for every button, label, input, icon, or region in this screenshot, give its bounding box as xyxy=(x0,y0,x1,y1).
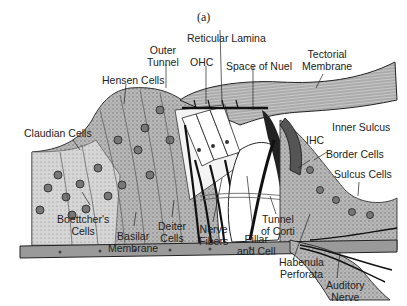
label-boettchers-cells: Boettcher's Cells xyxy=(57,213,109,237)
label-habenula-line1: Habenula xyxy=(279,256,324,268)
label-hensen-cells: Hensen Cells xyxy=(102,74,164,86)
label-outer-tunnel: Outer Tunnel xyxy=(147,44,179,68)
label-ihc: IHC xyxy=(306,134,324,146)
label-boettchers-line2: Cells xyxy=(57,225,109,237)
label-tunnel-of-corti: Tunnel of Corti xyxy=(261,213,295,237)
panel-label: (a) xyxy=(197,10,210,25)
label-tunnel-corti-line1: Tunnel xyxy=(261,213,295,225)
label-habenula-perforata: Habenula Perforata xyxy=(279,256,324,280)
label-claudian-cells: Claudian Cells xyxy=(24,127,92,139)
label-outer-tunnel-line1: Outer xyxy=(147,44,179,56)
label-tectorial-line2: Membrane xyxy=(302,60,352,72)
label-space-of-nuel: Space of Nuel xyxy=(226,60,292,72)
label-border-cells: Border Cells xyxy=(326,148,384,160)
label-ohc: OHC xyxy=(190,56,213,68)
label-reticular-lamina: Reticular Lamina xyxy=(187,32,266,44)
label-outer-tunnel-line2: Tunnel xyxy=(147,56,179,68)
label-auditory-line2: Nerve xyxy=(326,291,365,303)
label-nerve-fibers-line2: Fibers xyxy=(199,235,228,247)
label-deiter-cells: Deiter Cells xyxy=(158,220,186,244)
label-basilar-line1: Basilar xyxy=(108,230,158,242)
label-sulcus-cells: Sulcus Cells xyxy=(334,168,392,180)
label-deiter-line2: Cells xyxy=(158,232,186,244)
label-inner-sulcus: Inner Sulcus xyxy=(332,121,390,133)
label-basilar-line2: Membrane xyxy=(108,242,158,254)
label-tunnel-corti-line2: of Corti xyxy=(261,225,295,237)
label-auditory-nerve: Auditory Nerve xyxy=(326,279,365,303)
label-nerve-fibers: Nerve Fibers xyxy=(199,223,228,247)
label-deiter-line1: Deiter xyxy=(158,220,186,232)
label-tectorial-membrane: Tectorial Membrane xyxy=(302,48,352,72)
label-boettchers-line1: Boettcher's xyxy=(57,213,109,225)
label-nerve-fibers-line1: Nerve xyxy=(199,223,228,235)
label-habenula-line2: Perforata xyxy=(279,268,324,280)
label-auditory-line1: Auditory xyxy=(326,279,365,291)
label-tectorial-line1: Tectorial xyxy=(302,48,352,60)
label-basilar-membrane: Basilar Membrane xyxy=(108,230,158,254)
label-pillar-line2: and Cell xyxy=(237,245,276,257)
